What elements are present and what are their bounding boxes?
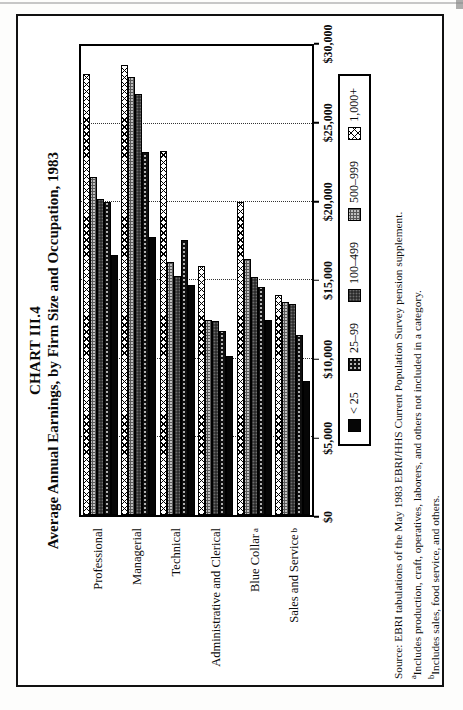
category-label-technical: Technical bbox=[157, 521, 196, 681]
bar-group-administrative-and-clerical bbox=[197, 46, 235, 515]
bar-500999-4 bbox=[244, 259, 251, 515]
bar-<25-1 bbox=[149, 237, 156, 515]
legend-label: 100–499 bbox=[347, 242, 362, 284]
chart-title-block: CHART III.4 Average Annual Earnings, by … bbox=[27, 16, 62, 685]
bar-2599-5 bbox=[296, 335, 303, 515]
footnote-a: aIncludes production, craft, operatives,… bbox=[406, 19, 424, 679]
axis-tick-4 bbox=[314, 201, 319, 203]
bar-group-sales-and-service bbox=[274, 46, 312, 515]
chart-page-frame: CHART III.4 Average Annual Earnings, by … bbox=[16, 14, 444, 687]
axis-tick-1 bbox=[314, 437, 319, 439]
bar-500999-1 bbox=[128, 77, 135, 515]
category-label-text: Technical bbox=[169, 528, 184, 576]
category-label-text: Sales and Service bbox=[287, 535, 302, 623]
bar-2599-1 bbox=[142, 152, 149, 515]
axis-tick-5 bbox=[314, 122, 319, 124]
bar-1000+-4 bbox=[237, 202, 244, 515]
bar-<25-2 bbox=[188, 285, 195, 515]
legend-item-100499: 100–499 bbox=[347, 242, 362, 302]
bar-100499-1 bbox=[135, 94, 142, 515]
axis-tick-label-0: $0 bbox=[321, 511, 336, 523]
category-axis-labels: ProfessionalManagerialTechnicalAdministr… bbox=[79, 521, 314, 681]
category-label-administrative-and-clerical: Administrative and Clerical bbox=[197, 521, 236, 681]
legend-swatch-black-dotted bbox=[348, 358, 361, 371]
bar-2599-2 bbox=[181, 240, 188, 515]
bar-1000+-1 bbox=[121, 65, 128, 515]
bar-1000+-3 bbox=[198, 266, 205, 515]
footnote-marker: a bbox=[250, 528, 260, 532]
axis-tick-3 bbox=[314, 280, 319, 282]
bar-100499-2 bbox=[174, 276, 181, 515]
category-label-text: Professional bbox=[91, 528, 106, 590]
category-label-text: Managerial bbox=[130, 528, 145, 585]
source-note: Source: EBRI tabulations of the May 1983… bbox=[391, 19, 442, 679]
axis-tick-0 bbox=[314, 516, 319, 518]
bar-2599-0 bbox=[104, 202, 111, 515]
bar-100499-5 bbox=[289, 304, 296, 515]
legend-swatch-gray-stipple bbox=[348, 208, 361, 221]
scan-artifact-mark bbox=[456, 0, 463, 9]
bar-2599-4 bbox=[258, 287, 265, 515]
bar-group-blue-collar bbox=[235, 46, 273, 515]
chart-title: Average Annual Earnings, by Firm Size an… bbox=[45, 16, 62, 685]
footnote-b: bIncludes sales, food service, and other… bbox=[424, 19, 442, 679]
legend-item-2599: 25–99 bbox=[347, 323, 362, 371]
legend: < 2525–99100–499500–9991,000+ bbox=[338, 74, 371, 446]
axis-tick-2 bbox=[314, 359, 319, 361]
legend-label: < 25 bbox=[347, 392, 362, 414]
category-label-sales-and-service: Sales and Serviceb bbox=[275, 521, 314, 681]
bar-<25-0 bbox=[111, 256, 118, 516]
bar-500999-5 bbox=[282, 302, 289, 515]
axis-tick-label-4: $20,000 bbox=[321, 182, 336, 221]
legend-label: 1,000+ bbox=[347, 88, 362, 122]
scan-artifact-line bbox=[0, 2, 463, 4]
bar-500999-3 bbox=[205, 320, 212, 515]
footnote-marker: b bbox=[289, 528, 299, 533]
bar-<25-4 bbox=[265, 320, 272, 515]
bar-<25-3 bbox=[226, 356, 233, 515]
category-label-text: Blue Collar bbox=[248, 534, 263, 592]
bar-100499-4 bbox=[251, 277, 258, 515]
axis-tick-6 bbox=[314, 43, 319, 45]
bar-1000+-0 bbox=[83, 74, 90, 515]
bar-group-technical bbox=[158, 46, 196, 515]
source-line: Source: EBRI tabulations of the May 1983… bbox=[391, 19, 406, 679]
axis-tick-label-1: $5,000 bbox=[321, 422, 336, 455]
bar-500999-0 bbox=[90, 177, 97, 515]
chart-number: CHART III.4 bbox=[27, 16, 44, 685]
legend-label: 500–999 bbox=[347, 161, 362, 203]
category-label-blue-collar: Blue Collara bbox=[236, 521, 275, 681]
legend-swatch-dark-stipple bbox=[348, 289, 361, 302]
bar-100499-3 bbox=[212, 321, 219, 515]
bar-group-managerial bbox=[119, 46, 157, 515]
bar-1000+-2 bbox=[160, 151, 167, 515]
category-label-professional: Professional bbox=[79, 521, 118, 681]
bar-1000+-5 bbox=[275, 295, 282, 515]
legend-item-500999: 500–999 bbox=[347, 161, 362, 221]
bar-group-professional bbox=[81, 46, 119, 515]
bar-<25-5 bbox=[303, 381, 310, 515]
bar-500999-2 bbox=[167, 262, 174, 515]
axis-tick-label-5: $25,000 bbox=[321, 103, 336, 142]
legend-item-1000+: 1,000+ bbox=[347, 88, 362, 140]
axis-tick-label-3: $15,000 bbox=[321, 261, 336, 300]
category-label-text: Administrative and Clerical bbox=[209, 528, 224, 667]
bar-100499-0 bbox=[97, 199, 104, 515]
legend-label: 25–99 bbox=[347, 323, 362, 353]
axis-tick-label-2: $10,000 bbox=[321, 340, 336, 379]
axis-tick-label-6: $30,000 bbox=[321, 25, 336, 64]
plot-area bbox=[79, 44, 314, 517]
legend-swatch-diagonal-crosshatch bbox=[348, 127, 361, 140]
category-label-managerial: Managerial bbox=[118, 521, 157, 681]
bar-2599-3 bbox=[219, 331, 226, 515]
legend-swatch-solid-black bbox=[348, 419, 361, 432]
legend-item-<25: < 25 bbox=[347, 392, 362, 432]
